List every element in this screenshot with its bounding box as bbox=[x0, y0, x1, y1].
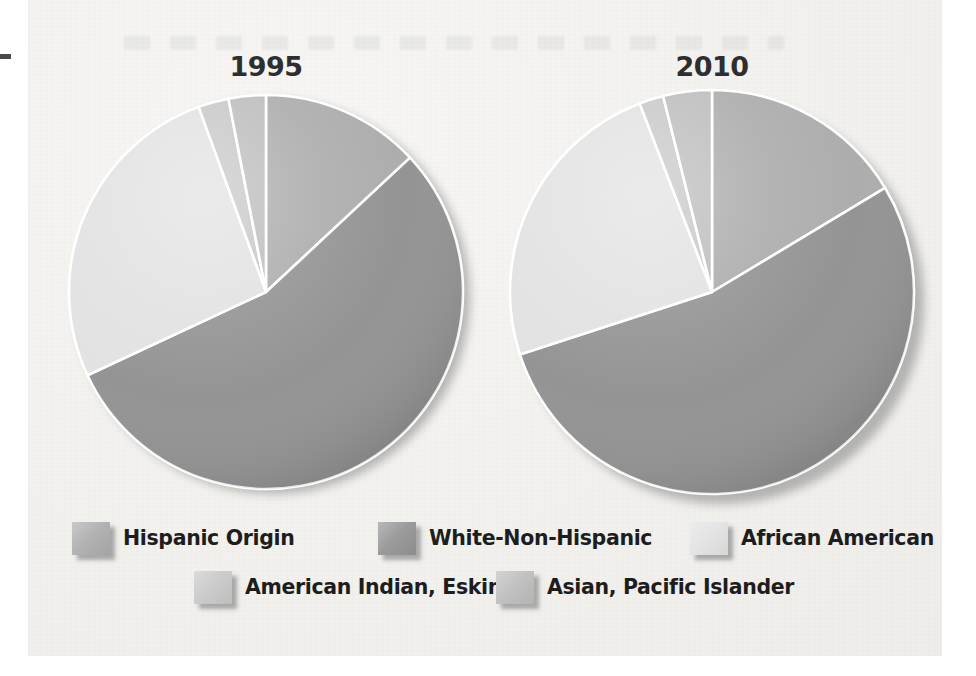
legend-item: African American bbox=[690, 516, 934, 560]
chart-legend: Hispanic OriginWhite-Non-HispanicAfrican… bbox=[28, 516, 942, 614]
legend-swatch bbox=[690, 522, 728, 555]
legend-swatch-sheen bbox=[194, 571, 232, 604]
legend-swatch bbox=[72, 522, 110, 555]
legend-swatch-sheen bbox=[690, 522, 728, 555]
legend-item: Asian, Pacific Islander bbox=[496, 565, 794, 609]
legend-swatch bbox=[194, 571, 232, 604]
pie-slices bbox=[510, 90, 914, 494]
legend-item: White-Non-Hispanic bbox=[378, 516, 652, 560]
legend-label: American Indian, Eskimo bbox=[245, 575, 523, 599]
legend-swatch bbox=[496, 571, 534, 604]
legend-label: African American bbox=[741, 526, 934, 550]
legend-row-2: American Indian, EskimoAsian, Pacific Is… bbox=[28, 565, 942, 614]
legend-row-1: Hispanic OriginWhite-Non-HispanicAfrican… bbox=[28, 516, 942, 565]
legend-swatch-sheen bbox=[378, 522, 416, 555]
legend-label: Asian, Pacific Islander bbox=[547, 575, 794, 599]
legend-swatch-sheen bbox=[72, 522, 110, 555]
legend-label: Hispanic Origin bbox=[123, 526, 294, 550]
legend-label: White-Non-Hispanic bbox=[429, 526, 652, 550]
scanned-page: 1995 2010 Hispanic OriginWhite-Non-Hispa… bbox=[0, 0, 976, 676]
legend-swatch-sheen bbox=[496, 571, 534, 604]
legend-item: Hispanic Origin bbox=[72, 516, 294, 560]
legend-item: American Indian, Eskimo bbox=[194, 565, 523, 609]
legend-swatch bbox=[378, 522, 416, 555]
